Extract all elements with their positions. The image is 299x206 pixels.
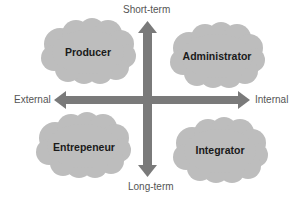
quadrant-label-administrator: Administrator: [183, 50, 252, 62]
axis-label-top: Short-term: [123, 4, 170, 15]
quadrant-label-producer: Producer: [65, 46, 111, 58]
quadrant-label-entrepeneur: Entrepeneur: [53, 141, 115, 153]
axis-label-left: External: [14, 94, 51, 105]
axis-label-bottom: Long-term: [128, 181, 174, 192]
axis-label-right: Internal: [255, 94, 288, 105]
quadrant-label-integrator: Integrator: [195, 144, 244, 156]
quadrant-diagram: Short-term Long-term External Internal P…: [0, 0, 299, 206]
